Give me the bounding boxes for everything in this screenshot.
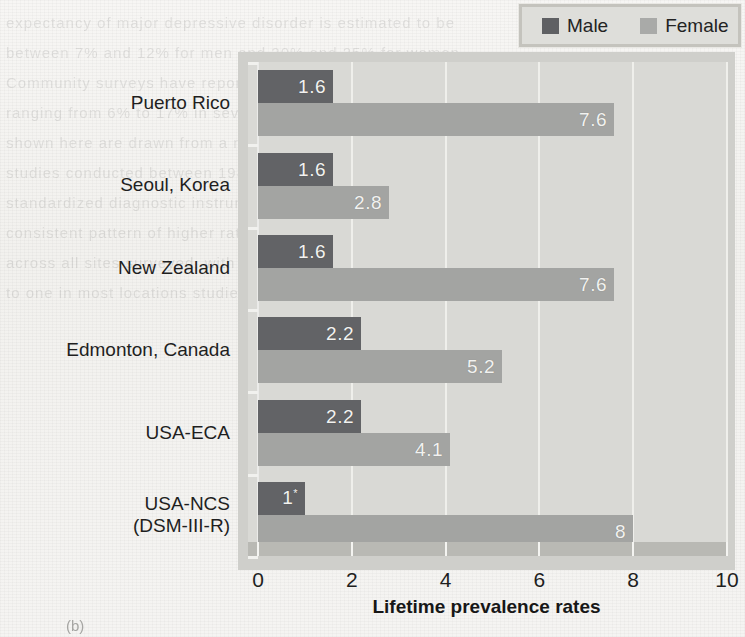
category-label-0: Puerto Rico [0,92,230,114]
y-tick-6 [248,556,258,559]
plot-inner-canvas: 1.67.61.62.81.67.62.25.22.24.11*8 [248,62,727,556]
x-tick-label-10: 10 [715,568,738,592]
x-tickmark-0 [257,542,259,556]
bar-value-label: 2.2 [326,406,354,428]
x-tickmark-8 [632,542,634,556]
x-tick-label-0: 0 [252,568,264,592]
bar-male-1[interactable]: 1.6 [258,153,333,186]
y-tick-3 [248,309,258,312]
category-label-line1: New Zealand [0,257,230,279]
bar-value-label: 8 [615,521,626,543]
figure-caption: (b) [66,617,84,634]
y-tick-1 [248,144,258,147]
bar-value-label: 7.6 [579,109,607,131]
x-axis-strip [248,542,727,556]
bar-female-1[interactable]: 2.8 [258,186,389,219]
bar-value-label: 1.6 [298,76,326,98]
legend-entry-male[interactable]: Male [542,15,608,37]
bar-male-4[interactable]: 2.2 [258,400,361,433]
bar-value-label: 1.6 [298,159,326,181]
x-tickmark-2 [351,542,353,556]
y-tick-4 [248,391,258,394]
y-tick-5 [248,474,258,477]
legend-entry-female[interactable]: Female [640,15,728,37]
category-label-line1: USA-ECA [0,422,230,444]
bar-value-label: 2.2 [326,323,354,345]
plot-area: 1.67.61.62.81.67.62.25.22.24.11*8 [238,52,735,570]
y-tick-2 [248,227,258,230]
category-label-1: Seoul, Korea [0,174,230,196]
bar-female-0[interactable]: 7.6 [258,103,614,136]
bar-value-label: 4.1 [415,439,443,461]
bar-value-label: 1.6 [298,241,326,263]
bar-chart: Male Female Location 1.67.61.62.81.67.62… [0,0,745,637]
category-label-line1: Puerto Rico [0,92,230,114]
gridline-4 [445,62,447,556]
x-tickmark-6 [538,542,540,556]
legend-swatch-female-icon [640,18,657,34]
category-label-2: New Zealand [0,257,230,279]
legend-label-male: Male [567,15,608,37]
y-tick-0 [248,62,258,65]
x-tickmark-10 [726,542,728,556]
category-label-line1: Seoul, Korea [0,174,230,196]
bar-female-4[interactable]: 4.1 [258,433,450,466]
category-label-line2: (DSM-III-R) [0,515,230,537]
bar-value-label: 7.6 [579,274,607,296]
bar-male-5[interactable]: 1* [258,482,305,515]
gridline-8 [632,62,634,556]
bar-value-footnote: * [293,487,298,499]
x-tickmark-4 [445,542,447,556]
legend-label-female: Female [665,15,728,37]
bar-value-label: 1* [282,487,298,509]
category-label-line1: USA-NCS [0,493,230,515]
bar-female-2[interactable]: 7.6 [258,268,614,301]
gridline-6 [538,62,540,556]
bar-male-0[interactable]: 1.6 [258,70,333,103]
gridline-2 [351,62,353,556]
x-tick-label-8: 8 [627,568,639,592]
category-label-line1: Edmonton, Canada [0,339,230,361]
bar-value-label: 2.8 [354,192,382,214]
bar-male-2[interactable]: 1.6 [258,235,333,268]
bar-value-label: 5.2 [467,356,495,378]
x-tick-label-2: 2 [346,568,358,592]
bar-female-3[interactable]: 5.2 [258,350,502,383]
legend-swatch-male-icon [542,18,559,34]
x-axis-title: Lifetime prevalence rates [238,596,735,618]
category-label-5: USA-NCS(DSM-III-R) [0,493,230,537]
x-tick-label-4: 4 [440,568,452,592]
x-tick-label-6: 6 [534,568,546,592]
gridline-10 [726,62,728,556]
chart-legend: Male Female [519,4,741,47]
category-label-3: Edmonton, Canada [0,339,230,361]
bar-male-3[interactable]: 2.2 [258,317,361,350]
category-label-4: USA-ECA [0,422,230,444]
